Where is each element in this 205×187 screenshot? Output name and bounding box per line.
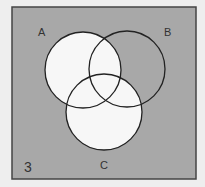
label-a: A	[38, 26, 46, 38]
venn-diagram: A B C 3	[0, 0, 205, 187]
label-b: B	[164, 26, 171, 38]
figure-number: 3	[24, 159, 32, 175]
label-c: C	[100, 159, 108, 171]
